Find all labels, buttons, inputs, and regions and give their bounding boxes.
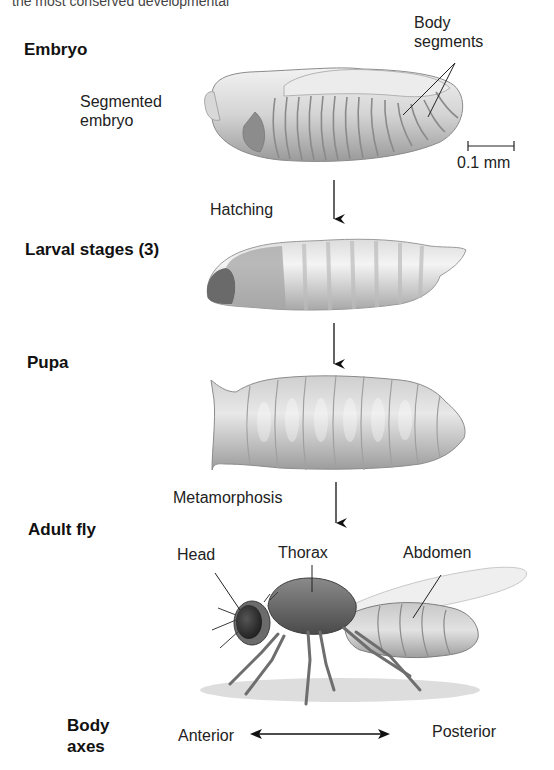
body-segments-label: Body segments [414,13,483,51]
anterior-label: Anterior [178,726,234,745]
stage-label-adult: Adult fly [28,520,96,540]
segmented-embryo-label: Segmented embryo [80,92,162,130]
abdomen-label: Abdomen [403,543,472,562]
thorax-label: Thorax [278,543,328,562]
anterior-posterior-arrow [250,729,390,739]
larva-drawing [207,239,466,310]
stage-label-embryo: Embryo [24,40,87,60]
body-axes-line1: Body [67,715,110,736]
segmented-line1: Segmented [80,92,162,111]
pupa-drawing [211,375,465,470]
adult-fly-drawing [200,565,527,704]
stage-label-body-axes: Body axes [67,715,110,757]
body-axes-line2: axes [67,736,110,757]
stage-label-larval: Larval stages (3) [25,240,159,260]
body-seg-line2: segments [414,32,483,51]
stage-label-pupa: Pupa [27,353,69,373]
head-label: Head [177,545,215,564]
hatching-label: Hatching [210,200,273,219]
metamorphosis-label: Metamorphosis [173,488,282,507]
segmented-line2: embryo [80,111,162,130]
body-seg-line1: Body [414,13,483,32]
posterior-label: Posterior [432,722,496,741]
embryo-drawing [205,63,514,161]
scale-bar-label: 0.1 mm [457,153,510,172]
